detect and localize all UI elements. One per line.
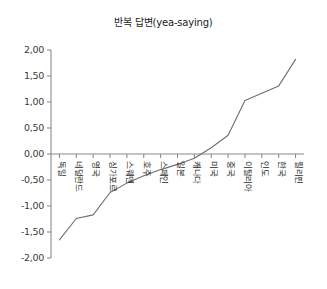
y-axis-ticks: 2,001,501,000,500,00-0,50-1,00-1,50-2,00: [21, 44, 51, 263]
x-category-label: 인도: [260, 161, 270, 177]
x-category-label: 영국: [91, 161, 101, 177]
x-category-label: 호주: [142, 161, 152, 177]
x-category-label: 필리핀: [294, 161, 304, 184]
x-category-label: 독일: [57, 161, 67, 176]
y-tick-label: 2,00: [24, 44, 44, 55]
y-tick-label: 1,50: [24, 70, 44, 81]
data-series-line: [59, 59, 295, 239]
y-tick-label: 0,50: [24, 122, 44, 133]
y-tick-label: -1,50: [21, 226, 44, 237]
chart-container: 반복 답변(yea-saying) 2,001,501,000,500,00-0…: [0, 0, 327, 289]
line-chart-plot: 2,001,501,000,500,00-0,50-1,00-1,50-2,00…: [0, 0, 327, 289]
y-tick-label: -2,00: [21, 252, 44, 263]
y-tick-label: -1,00: [21, 200, 44, 211]
x-category-label: 네덜란드: [74, 161, 84, 192]
x-axis-ticks: [59, 154, 295, 158]
x-category-label: 스웨덴: [125, 161, 135, 184]
x-category-label: 싱가포르: [108, 161, 118, 192]
y-tick-label: 0,00: [24, 148, 44, 159]
y-tick-label: 1,00: [24, 96, 44, 107]
x-category-label: 스페인: [159, 161, 169, 184]
x-axis-labels: 독일네덜란드영국싱가포르스웨덴호주스페인일본캐나다미국중국이탈리아인도한국필리핀: [57, 161, 303, 192]
x-category-label: 이탈리아: [243, 161, 253, 192]
x-category-label: 중국: [226, 161, 236, 177]
x-category-label: 일본: [176, 161, 186, 177]
x-category-label: 캐나다: [192, 161, 202, 184]
x-category-label: 미국: [209, 161, 219, 177]
x-category-label: 한국: [277, 161, 287, 177]
y-tick-label: -0,50: [21, 174, 44, 185]
